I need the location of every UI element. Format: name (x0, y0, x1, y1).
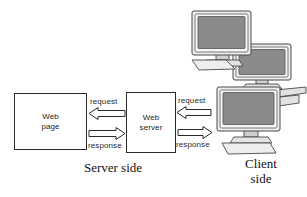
server-side-caption: Server side (57, 160, 169, 175)
web-page-label-line1: Web (42, 112, 59, 122)
web-server-label-line1: Web (143, 113, 160, 123)
client-side-caption-line2: side (230, 171, 292, 186)
right-request-label: request (178, 96, 205, 105)
web-page-label-line2: page (41, 122, 59, 132)
client-computer-top (190, 10, 268, 76)
client-computer-bottom (214, 84, 300, 160)
left-response-label: response (88, 141, 122, 150)
left-request-arrow (88, 106, 126, 125)
client-side-caption-line1: Client (230, 156, 292, 171)
web-server-node: Web server (126, 92, 176, 153)
web-server-label-line2: server (140, 123, 163, 133)
web-page-node: Web page (14, 93, 87, 150)
diagram-canvas: Web page Web server request response req… (0, 0, 307, 197)
right-response-label: response (176, 140, 210, 149)
client-side-caption: Client side (230, 156, 292, 186)
right-request-arrow (176, 105, 212, 124)
left-request-label: request (90, 97, 117, 106)
server-side-caption-text: Server side (84, 160, 142, 175)
